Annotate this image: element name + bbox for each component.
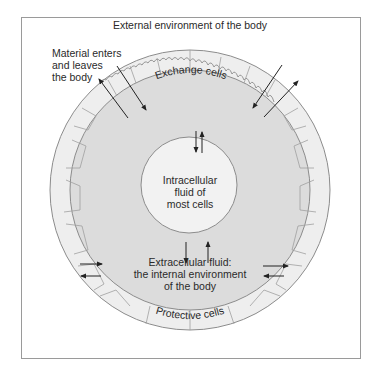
intracellular-label-line3: most cells [146,198,234,210]
extracellular-label: Extracellular fluid: the internal enviro… [100,256,280,292]
material-label: Material enters and leaves the body [52,47,121,83]
intracellular-label: Intracellular fluid of most cells [146,174,234,210]
extracellular-label-line2: the internal environment [100,268,280,280]
intracellular-label-line2: fluid of [146,186,234,198]
intracellular-label-line1: Intracellular [146,174,234,186]
material-label-line1: Material enters [52,47,121,59]
extracellular-label-line1: Extracellular fluid: [100,256,280,268]
extracellular-label-line3: of the body [100,280,280,292]
diagram-title: External environment of the body [0,19,380,31]
material-label-line3: the body [52,71,121,83]
material-label-line2: and leaves [52,59,121,71]
